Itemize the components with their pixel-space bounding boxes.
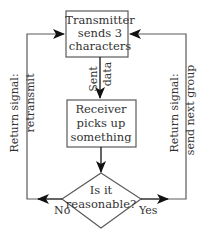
retransmit-label-line-2: retransmit [24, 73, 37, 133]
sent-data-label-line-1: Sent [87, 66, 100, 92]
retransmit-label-line-1: Return signal: [8, 73, 21, 152]
transmitter-node: Transmitter sends 3 characters [65, 11, 135, 57]
sent-data-label-line-2: data [101, 61, 114, 86]
transmitter-line-1: Transmitter [65, 13, 135, 27]
yes-label: Yes [138, 204, 158, 217]
decision-line-1: Is it [90, 183, 113, 197]
decision-line-2: reasonable? [66, 197, 136, 211]
receiver-line-2: picks up [77, 116, 126, 130]
no-branch-edge: No Return signal: retransmit [8, 34, 71, 217]
sent-data-edge: Sent data [87, 57, 114, 98]
transmitter-line-3: characters [69, 39, 131, 53]
send-next-group-label-line-1: Return signal: [168, 73, 181, 152]
receiver-node: Receiver picks up something [67, 100, 136, 147]
flowchart-diagram: Transmitter sends 3 characters Sent data… [0, 0, 207, 240]
receiver-line-3: something [70, 130, 132, 144]
receiver-line-1: Receiver [75, 102, 127, 116]
decision-node: Is it reasonable? [62, 173, 141, 228]
transmitter-line-2: sends 3 [78, 26, 122, 40]
send-next-group-label-line-2: send next group [184, 65, 197, 156]
no-label: No [54, 204, 71, 217]
yes-branch-edge: Yes Return signal: send next group [130, 34, 197, 217]
